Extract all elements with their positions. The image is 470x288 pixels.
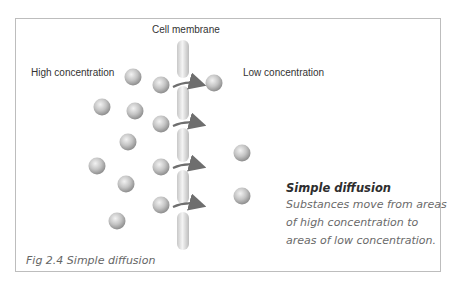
description-title: Simple diffusion (286, 181, 391, 195)
particle (118, 176, 135, 193)
cell-membrane-label: Cell membrane (152, 24, 220, 35)
particle (234, 145, 251, 162)
particle (234, 188, 251, 205)
particle (153, 197, 170, 214)
particle (94, 99, 111, 116)
particle (206, 75, 223, 92)
membrane-segment (177, 86, 189, 120)
particle (127, 103, 144, 120)
figure-caption: Fig 2.4 Simple diffusion (26, 254, 155, 267)
particle (89, 158, 106, 175)
low-concentration-label: Low concentration (243, 67, 324, 78)
particle (153, 77, 170, 94)
arrow-icon (173, 164, 200, 168)
arrow-icon (173, 83, 200, 87)
particle (109, 213, 126, 230)
description-line: areas of low concentration. (286, 234, 436, 247)
particle (153, 116, 170, 133)
membrane-segment (177, 170, 189, 204)
particle (120, 134, 137, 151)
description-line: Substances move from areas (286, 198, 447, 211)
particle (153, 159, 170, 176)
cell-membrane (177, 40, 189, 250)
particles-low-concentration (206, 75, 251, 205)
arrow-icon (173, 122, 200, 126)
high-concentration-label: High concentration (31, 67, 114, 78)
particle (125, 69, 142, 86)
particles-high-concentration (89, 69, 170, 230)
description-line: of high concentration to (286, 216, 418, 229)
arrow-icon (173, 203, 200, 207)
membrane-segment (177, 212, 189, 250)
membrane-segment (177, 128, 189, 162)
membrane-segment (177, 40, 189, 78)
